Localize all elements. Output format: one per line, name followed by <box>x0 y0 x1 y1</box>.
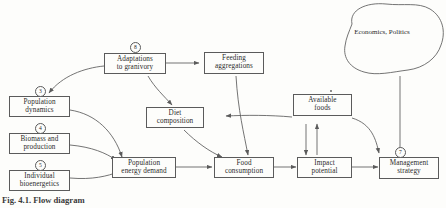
badge-5: 5 <box>35 160 46 171</box>
node-available-foods-line2: foods <box>307 105 337 113</box>
node-adaptations-line2: to granivory <box>116 64 155 72</box>
node-economics-line2: Politics <box>389 28 410 36</box>
node-impact-line2: potential <box>310 168 338 176</box>
node-energy-demand-line2: energy demand <box>120 168 167 176</box>
node-adaptations-to-granivory[interactable]: Adaptations to granivory <box>104 53 166 74</box>
badge-7: 7 <box>395 147 406 158</box>
node-food-consumption[interactable]: Food consumption <box>214 157 274 178</box>
node-food-consumption-line2: consumption <box>224 168 264 176</box>
badge-3: 3 <box>35 86 46 97</box>
figure-caption: Fig. 4.1. Flow diagram <box>2 195 85 205</box>
node-economics-line1: Economics, <box>354 28 387 36</box>
economics-politics-blob <box>345 4 444 74</box>
edge-available-foods-diet <box>226 115 292 117</box>
edge-diet-food-consumption <box>184 130 222 157</box>
node-economics-politics[interactable]: Economics, Politics <box>352 28 412 36</box>
node-biomass-and-production[interactable]: Biomass and production <box>9 133 70 154</box>
edge-available-foods-management <box>352 118 379 153</box>
node-population-dynamics-line2: dynamics <box>22 107 56 115</box>
node-management-strategy[interactable]: Management strategy <box>379 157 439 179</box>
node-individual-bioenergetics[interactable]: Individual bioenergetics <box>9 170 70 191</box>
node-available-foods[interactable]: Available foods <box>293 94 352 116</box>
node-management-line2: strategy <box>389 168 430 176</box>
available-foods-dot <box>330 90 332 92</box>
badge-8: 8 <box>130 42 141 53</box>
node-feeding-line2: aggregations <box>214 63 254 71</box>
node-diet-composition[interactable]: Diet composition <box>146 107 204 128</box>
edge-adaptations-diet <box>148 76 172 105</box>
node-bioenergetics-line2: bioenergetics <box>19 181 61 189</box>
badge-4: 4 <box>35 123 46 134</box>
edge-adaptations-population-dynamics <box>49 66 104 93</box>
node-population-energy-demand[interactable]: Population energy demand <box>112 157 176 178</box>
node-impact-potential[interactable]: Impact potential <box>297 157 352 178</box>
edge-bioenergetics-energy-demand <box>70 172 118 179</box>
figure-canvas: Adaptations to granivory 8 Feeding aggre… <box>0 0 446 208</box>
node-diet-line2: composition <box>156 118 195 126</box>
edge-biomass-energy-demand <box>70 145 116 160</box>
node-population-dynamics[interactable]: Population dynamics <box>9 96 70 117</box>
node-biomass-line2: production <box>19 144 59 152</box>
node-feeding-aggregations[interactable]: Feeding aggregations <box>204 52 264 74</box>
